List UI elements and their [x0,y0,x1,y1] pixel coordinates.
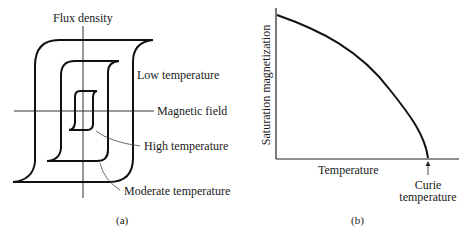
temperature-label: Temperature [318,163,378,177]
magnetization-curve [277,15,428,158]
saturation-magnetization-label: Saturation magnetization [259,25,273,145]
flux-density-label: Flux density [53,11,113,25]
panel-a-caption: (a) [116,214,129,227]
magnetic-field-label: Magnetic field [157,104,227,118]
low-temperature-label: Low temperature [137,68,219,82]
high-temperature-label: High temperature [144,139,228,153]
moderate-temperature-label: Moderate temperature [124,184,230,198]
figure: Flux density Magnetic field Low temperat… [0,0,470,239]
panel-b: Saturation magnetization Temperature Cur… [259,8,459,227]
curie-label-line2: temperature [399,190,456,204]
curie-arrow-head [426,161,431,166]
panel-a: Flux density Magnetic field Low temperat… [13,11,230,227]
moderate-temperature-leader [100,163,120,190]
panel-b-caption: (b) [351,214,364,227]
